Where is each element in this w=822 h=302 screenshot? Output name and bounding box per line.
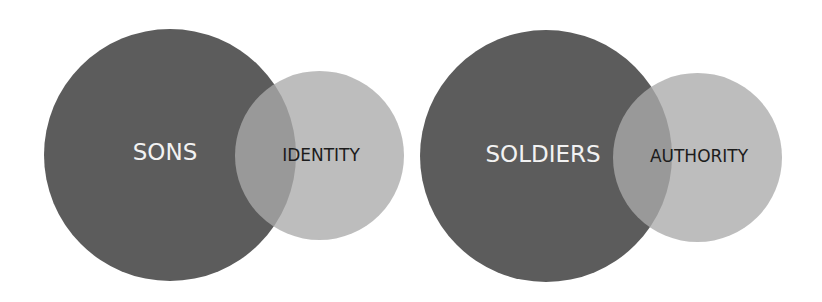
label-authority: AUTHORITY [650,146,748,166]
label-soldiers: SOLDIERS [485,141,600,167]
venn-diagrams: SONS IDENTITY SOLDIERS AUTHORITY [0,0,822,302]
label-identity: IDENTITY [282,145,360,165]
label-sons: SONS [133,139,198,165]
